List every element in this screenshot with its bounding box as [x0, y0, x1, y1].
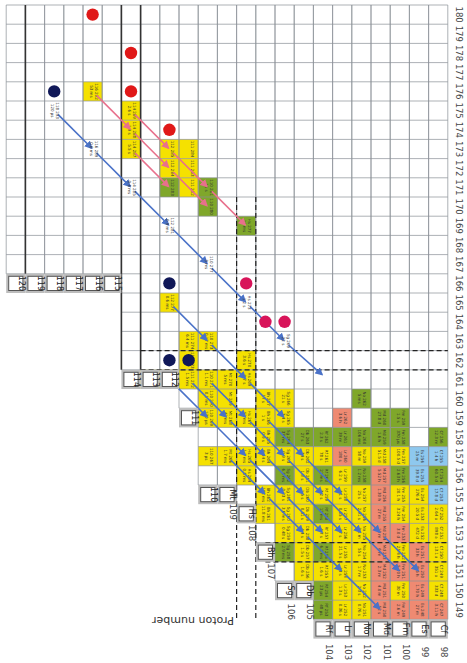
nuclide-cell: 110 2673 µs — [198, 447, 217, 466]
nuclide-cell-label: 111 2721.5 ms — [185, 371, 195, 388]
proton-number-tick: 98 — [439, 647, 449, 658]
nuclide-cell: Cf 2522.64 a — [429, 504, 448, 523]
nuclide-cell-label: Lr 26139 m — [338, 431, 348, 444]
predicted-nuclide-dot — [163, 277, 175, 289]
nuclide-cell: Fm 2591.5 s — [390, 408, 409, 427]
element-symbol-label: Es — [420, 624, 429, 633]
element-symbol-label: 111 — [190, 410, 199, 425]
element-symbol-label: Db — [305, 585, 314, 596]
neutron-number-tick: 177 — [454, 64, 464, 80]
neutron-number-tick: 168 — [454, 237, 464, 253]
nuclide-cell: No 25958 m — [352, 447, 371, 466]
element-symbol-box: Fm — [390, 619, 410, 638]
neutron-number-tick: 175 — [454, 102, 464, 118]
nuclide-cell-label: Fm 258370 µs — [396, 429, 406, 445]
nuclide-cell: Db 2561.6 s — [294, 562, 313, 581]
nuclide-chart: Cf 2473.11 hCf 248333 dCf 249351 aCf 250… — [0, 0, 467, 663]
nuclide-cell: Md 2522.3 m — [371, 562, 390, 581]
proton-number-tick: 102 — [362, 644, 372, 660]
nuclide-cell-label: 110 269170 µs — [204, 410, 214, 427]
nuclide-cell-label: 112 283 — [170, 179, 175, 196]
nuclide-cell-label: Es 25539.8 d — [415, 469, 425, 483]
element-symbol-box: 118 — [45, 274, 65, 293]
nuclide-cell: Rf 26178 s — [313, 447, 332, 466]
nuclide-cell-label: 110 2711.1 ms — [204, 371, 214, 388]
neutron-number-tick: 173 — [454, 141, 464, 157]
nuclide-cell: Cf 25460.5 d — [429, 466, 448, 485]
predicted-nuclide-dot — [163, 354, 175, 366]
nuclide-cell: Es 24827 m — [409, 600, 428, 619]
nuclide-cell-label: Md 2561.30 h — [377, 487, 387, 502]
neutron-number-tick: 161 — [454, 371, 464, 387]
proton-number-tick: 109 — [228, 504, 238, 520]
nuclide-cell-label: Es 24827 m — [415, 603, 425, 617]
element-symbol-box: 120 — [6, 274, 26, 293]
element-symbol-box: 113 — [141, 370, 161, 389]
neutron-number-tick: 158 — [454, 429, 464, 445]
nuclide-cell-label: Fm 25520.1 h — [396, 487, 406, 503]
nuclide-cell: Cf 2551.4 h — [429, 447, 448, 466]
nuclide-cell-label: Hs 27711 ms — [242, 219, 252, 233]
nuclide-cell-label: Cf 249351 a — [434, 565, 444, 579]
nuclide-cell: Sg 2590.48 s — [275, 523, 294, 542]
nuclide-cell-label: Bh 26111.8 ms — [261, 506, 271, 522]
nuclide-cell: Cf 248333 d — [429, 581, 448, 600]
nuclide-cell: Fm 258370 µs — [390, 427, 409, 446]
chain-nuclide-label: 118 293120 µs — [50, 102, 60, 119]
nuclide-cell-label: Md 2522.3 m — [377, 564, 387, 579]
neutron-number-tick: 179 — [454, 26, 464, 42]
nuclide-cell-label: 112 2770.6 ms — [165, 294, 175, 311]
nuclide-cell-label: No 2510.76 s — [357, 603, 367, 618]
nuclide-cell-label: Cf 25612.3 m — [434, 430, 444, 444]
neutron-number-tick: 152 — [454, 544, 464, 560]
neutron-number-tick: 151 — [454, 563, 464, 579]
element-symbol-box: Bh — [256, 543, 276, 562]
chain-nuclide-label: 114 2850.6 ms — [127, 179, 137, 196]
nuclide-cell: Db 26327 s — [294, 427, 313, 446]
element-symbol-label: 114 — [132, 372, 141, 387]
nuclide-cell-label: 110 280 — [209, 198, 214, 215]
nuclide-cell-label: Rf 25423 µs — [319, 584, 329, 598]
element-symbol-label: 120 — [17, 276, 26, 291]
proton-number-tick: 105 — [305, 604, 315, 620]
neutron-number-tick: 178 — [454, 45, 464, 61]
element-symbol-label: Bh — [266, 547, 275, 558]
neutron-number-tick: 150 — [454, 582, 464, 598]
nuclide-cell-label: Es 25320.5 d — [415, 507, 425, 521]
neutron-number-tick: 169 — [454, 218, 464, 234]
neutron-number-tick: 166 — [454, 275, 464, 291]
proton-number-tick: 103 — [343, 644, 353, 660]
neutron-number-tick: 153 — [454, 525, 464, 541]
nuclide-cell: Fm 257100.5 d — [390, 447, 409, 466]
element-symbol-label: 119 — [36, 276, 45, 291]
predicted-nuclide-dot — [125, 85, 137, 97]
nuclide-cell: Es 25133 h — [409, 543, 428, 562]
element-symbol-box: 110 — [198, 485, 218, 504]
neutron-number-tick: 180 — [454, 6, 464, 22]
element-symbol-label: Mt — [228, 490, 237, 500]
nuclide-cell: Sg 26621 s — [275, 389, 294, 408]
neutron-number-tick: 159 — [454, 410, 464, 426]
element-symbol-label: No — [362, 624, 371, 635]
predicted-nuclide-dot — [48, 85, 60, 97]
predicted-nuclide-dot — [163, 124, 175, 136]
chain-nuclide-label: 110 2773 ms — [204, 256, 214, 273]
nuclide-cell: Bh 26111.8 ms — [256, 504, 275, 523]
neutron-number-tick: 176 — [454, 83, 464, 99]
nuclide-cell: Sg 2582.9 ms — [275, 543, 294, 562]
nuclide-cell-label: 111 284 — [190, 141, 195, 158]
nuclide-cell-label: Es 252472 d — [415, 526, 425, 540]
nuclide-cell: Db 2571.5 s — [294, 543, 313, 562]
nuclide-cell: Es 2491.70 h — [409, 581, 428, 600]
element-symbol-box: Md — [371, 619, 391, 638]
nuclide-cell: Rf 25423 µs — [313, 581, 332, 600]
element-symbol-box: Cf — [429, 619, 449, 638]
nuclide-cell-label: Sg 2582.9 ms — [281, 545, 291, 559]
nuclide-cell-label: Cf 248333 d — [434, 584, 444, 598]
nuclide-cell: Lr 2520.36 s — [333, 600, 352, 619]
neutron-number-tick: 160 — [454, 390, 464, 406]
nuclide-cell-label: Rf 25348 µs — [319, 603, 329, 617]
nuclide-cell: Lr 26139 m — [333, 427, 352, 446]
predicted-nuclide-dot — [86, 8, 98, 20]
axis-title-proton-number: Proton number — [152, 614, 234, 627]
